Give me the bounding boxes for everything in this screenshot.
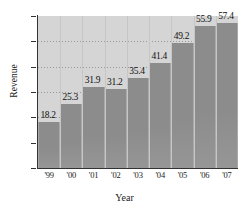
x-axis-tick-label: '00 [60,171,82,180]
bar-rect [38,122,60,168]
bar-value-label: 57.4 [215,12,237,22]
bar-value-label: 41.4 [148,52,170,62]
x-axis-tick-label: '01 [82,171,104,180]
bar-rect [171,43,193,168]
y-axis-tick [31,143,36,144]
y-axis-tick [31,117,36,118]
bar [127,16,149,168]
y-axis-tick [31,67,36,68]
bar [216,16,238,168]
x-axis-tick-label: '99 [38,171,60,180]
bar-separator [194,16,195,168]
x-axis-line [37,168,238,169]
y-axis-title: Revenue [9,46,19,116]
bar-rect [216,23,238,168]
x-axis-title: Year [0,192,249,203]
y-axis-tick [31,168,36,169]
bar-chart: 0102030405060 18.225.331.931.235.441.449… [0,0,249,219]
bar-value-label: 35.4 [126,67,148,77]
bar-separator [82,16,83,168]
bar-rect [194,26,216,168]
bar-rect [149,63,171,168]
bar [82,16,104,168]
x-axis-tick-label: '02 [105,171,127,180]
bar-separator [149,16,150,168]
bar-separator [127,16,128,168]
bar-value-label: 18.2 [37,111,59,121]
bar-value-label: 55.9 [193,15,215,25]
bar-rect [60,104,82,168]
bar-separator [216,16,217,168]
y-axis-tick [31,41,36,42]
bar-value-label: 31.9 [81,76,103,86]
bar [105,16,127,168]
x-axis-tick-label: '03 [127,171,149,180]
bar-separator [60,16,61,168]
bar-rect [82,87,104,168]
x-axis-tick-label: '07 [216,171,238,180]
x-axis-tick-label: '04 [149,171,171,180]
bar-value-label: 25.3 [59,93,81,103]
bar-value-label: 31.2 [104,78,126,88]
bar-value-label: 49.2 [170,32,192,42]
bar-separator [171,16,172,168]
bar-rect [105,89,127,168]
x-axis-tick-label: '06 [194,171,216,180]
bar-separator [105,16,106,168]
y-axis-tick [31,16,36,17]
x-axis-tick-label: '05 [171,171,193,180]
bar [149,16,171,168]
bar [38,16,60,168]
bar [194,16,216,168]
y-axis-tick [31,92,36,93]
bar-rect [127,78,149,168]
